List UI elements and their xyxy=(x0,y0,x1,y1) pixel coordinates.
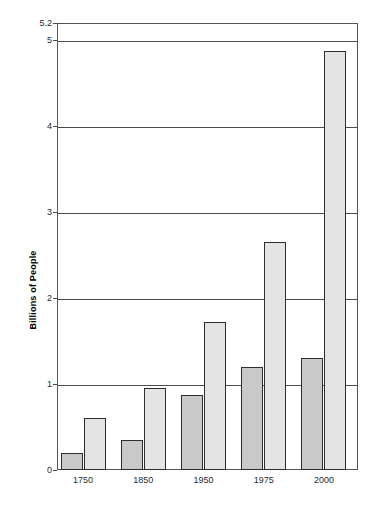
y-tick-mark-0 xyxy=(53,470,57,471)
y-tick-label-3: 3 xyxy=(9,207,57,217)
gridline-1 xyxy=(58,385,357,386)
y-tick-label-5.2: 5.2 xyxy=(9,18,57,28)
gridline-4 xyxy=(58,127,357,128)
y-axis-ticks: 0123455.2 xyxy=(0,23,57,470)
x-tick-label-2000: 2000 xyxy=(299,474,349,486)
gridline-5 xyxy=(58,41,357,42)
x-tick-label-1950: 1950 xyxy=(179,474,229,486)
y-tick-label-4: 4 xyxy=(9,121,57,131)
x-tick-label-1975: 1975 xyxy=(239,474,289,486)
y-tick-label-1: 1 xyxy=(9,379,57,389)
x-tick-label-1850: 1850 xyxy=(118,474,168,486)
bar-chart: Billions of People 0123455.2 17501850195… xyxy=(0,0,372,507)
y-tick-label-2: 2 xyxy=(9,293,57,303)
y-tick-label-0: 0 xyxy=(9,465,57,475)
gridline-3 xyxy=(58,213,357,214)
gridline-2 xyxy=(58,299,357,300)
x-axis-ticks: 17501850195019752000 xyxy=(57,474,358,490)
plot-area xyxy=(57,23,358,470)
x-tick-label-1750: 1750 xyxy=(58,474,108,486)
y-tick-label-5: 5 xyxy=(9,35,57,45)
